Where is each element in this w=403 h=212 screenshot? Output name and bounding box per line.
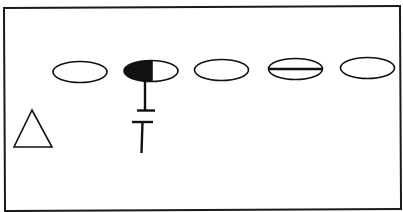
triangle-open xyxy=(14,110,52,147)
ellipse-2-half-filled xyxy=(124,61,178,82)
diagram-canvas xyxy=(0,0,403,212)
ellipse-4-barred xyxy=(269,59,323,80)
ellipse-3-open xyxy=(195,60,249,81)
diagram-frame xyxy=(4,6,401,211)
ellipse-1-open xyxy=(53,62,107,83)
ellipse-5-open xyxy=(341,58,395,79)
descent-connector xyxy=(132,81,155,153)
